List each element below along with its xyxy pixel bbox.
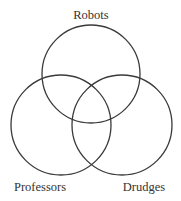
robots-label: Robots xyxy=(73,8,109,22)
venn-diagram: Robots Professors Drudges xyxy=(0,0,181,201)
robots-circle xyxy=(42,25,140,123)
professors-label: Professors xyxy=(14,180,66,194)
drudges-circle xyxy=(72,75,172,175)
drudges-label: Drudges xyxy=(123,180,165,194)
professors-circle xyxy=(11,75,111,175)
